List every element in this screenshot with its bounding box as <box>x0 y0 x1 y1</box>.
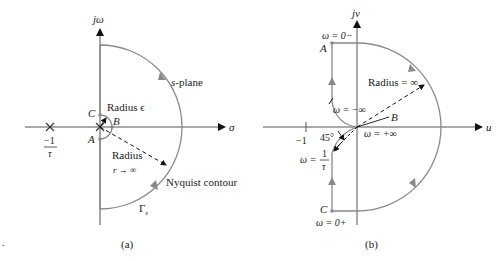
panel-b: jv u −1 A C ω = 0− ω = 0+ Radius = ∞ ω =… <box>263 7 492 251</box>
nyquist-figure: jω σ −1 τ C B A Radius ϵ s-plane <box>0 0 498 261</box>
caption-a: (a) <box>121 238 134 251</box>
gamma-s-label: Γs <box>139 202 148 217</box>
pole-label-numerator: −1 <box>44 135 55 146</box>
point-a-marker <box>98 137 102 141</box>
sigma-axis-label: σ <box>229 121 235 133</box>
s-plane-label: s-plane <box>171 76 203 88</box>
w-neg-inf-label: ω = −∞ <box>333 104 366 115</box>
point-b-label: B <box>391 111 398 123</box>
minus-one-label: −1 <box>296 135 307 146</box>
caption-b: (b) <box>365 238 378 251</box>
u-axis-label: u <box>486 121 492 133</box>
w-bottom-label: ω = 0+ <box>316 217 347 228</box>
epsilon-radius-arrow <box>100 118 106 127</box>
plot-arrow-lower-arc-icon <box>409 178 416 188</box>
w-tau-prefix: ω = <box>300 154 316 165</box>
w-tau-denominator: τ <box>322 161 326 172</box>
plot-arrow-left-up-icon <box>328 77 336 85</box>
point-a-marker <box>330 41 334 45</box>
point-c-marker <box>98 113 102 117</box>
point-c-label: C <box>88 107 96 119</box>
radius-inf-label: Radius = ∞ <box>368 76 418 88</box>
w-pos-inf-label: ω = +∞ <box>364 128 397 139</box>
point-a-label: A <box>319 42 327 54</box>
point-c-label: C <box>320 203 328 215</box>
w-top-label: ω = 0− <box>322 30 353 41</box>
stray-mark: . <box>2 236 5 248</box>
small-radius-label: Radius ϵ <box>107 101 145 113</box>
nyquist-contour-label: Nyquist contour <box>166 176 238 188</box>
jv-axis-label: jv <box>350 7 360 19</box>
pole-label-denominator: τ <box>48 148 52 159</box>
point-b-leader <box>357 117 389 127</box>
point-c-marker <box>330 209 334 213</box>
jw-axis-label: jω <box>91 13 104 25</box>
point-a-label: A <box>87 133 95 145</box>
w-tau-numerator: 1 <box>322 148 327 159</box>
large-radius-limit: r → ∞ <box>113 165 136 175</box>
large-radius-label: Radius <box>112 149 143 161</box>
point-b-label: B <box>113 115 120 127</box>
angle-45-label: 45° <box>320 132 334 143</box>
plot-arrow-left-lower-up-icon <box>328 177 336 185</box>
panel-a: jω σ −1 τ C B A Radius ϵ s-plane <box>2 13 238 251</box>
